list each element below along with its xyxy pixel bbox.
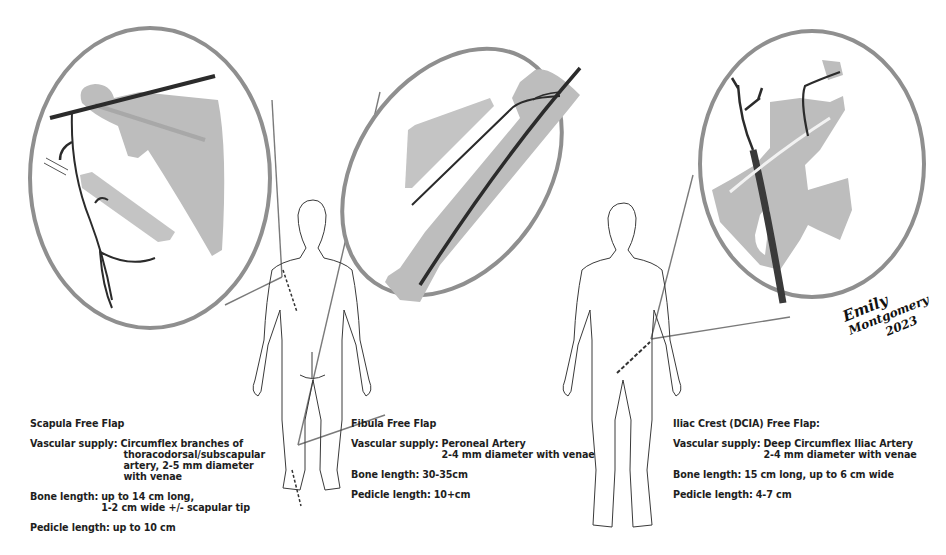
iliac-crest-flap-panel: Iliac Crest (DCIA) Free Flap: Vascular s… [673, 418, 917, 509]
vascular-supply: Vascular supply: Circumflex branches of … [30, 438, 265, 482]
scapula-inset [30, 28, 270, 328]
pedicle-length: Pedicle length: up to 10 cm [30, 522, 265, 533]
panel-title: Iliac Crest (DCIA) Free Flap: [673, 418, 917, 429]
fibula-flap-panel: Fibula Free Flap Vascular supply: Perone… [351, 418, 595, 509]
panel-title: Fibula Free Flap [351, 418, 595, 429]
pedicle-length: Pedicle length: 4-7 cm [673, 489, 917, 500]
panel-title: Scapula Free Flap [30, 418, 265, 429]
fibula-inset [297, 7, 608, 337]
bone-length: Bone length: up to 14 cm long, 1-2 cm wi… [30, 491, 265, 513]
scapula-flap-panel: Scapula Free Flap Vascular supply: Circu… [30, 418, 265, 542]
pedicle-length: Pedicle length: 10+cm [351, 489, 595, 500]
iliac-incision [617, 342, 650, 373]
fibula-incision [292, 470, 301, 506]
scapula-incision [283, 270, 297, 312]
vascular-supply: Vascular supply: Deep Circumflex Iliac A… [673, 438, 917, 460]
iliac-inset [700, 31, 924, 303]
bone-length: Bone length: 15 cm long, up to 6 cm wide [673, 469, 917, 480]
vascular-supply: Vascular supply: Peroneal Artery 2-4 mm … [351, 438, 595, 460]
bone-length: Bone length: 30-35cm [351, 469, 595, 480]
